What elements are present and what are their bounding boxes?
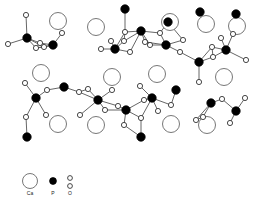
o-icon-upper	[68, 176, 73, 181]
atom-ca	[216, 69, 233, 86]
atom-o	[242, 95, 247, 100]
atom-p	[162, 41, 170, 49]
p-icon	[50, 178, 57, 185]
atom-ca	[33, 65, 50, 82]
atom-o	[59, 30, 64, 35]
atom-ca	[50, 116, 67, 133]
legend-item-o: O	[68, 176, 73, 196]
atom-p	[23, 34, 31, 42]
atom-o	[137, 83, 142, 88]
atom-o	[77, 112, 82, 117]
atom-o	[196, 79, 201, 84]
atom-o	[22, 80, 27, 85]
atom-p	[232, 107, 240, 115]
atom-o	[5, 41, 10, 46]
atom-o	[109, 87, 114, 92]
atom-p	[60, 83, 68, 91]
atom-p	[111, 45, 119, 53]
atom-p	[137, 27, 145, 35]
atom-o	[76, 89, 81, 94]
atom-p	[196, 8, 204, 16]
legend-label-ca: Ca	[27, 190, 34, 196]
atom-o	[41, 44, 46, 49]
atom-p	[49, 41, 57, 49]
atom-p	[137, 133, 145, 141]
atom-o	[155, 108, 160, 113]
atom-o	[122, 29, 127, 34]
ca-icon	[23, 174, 38, 189]
atom-ca	[50, 13, 67, 30]
atom-o	[230, 31, 235, 36]
atom-o	[23, 114, 28, 119]
atom-o	[243, 57, 248, 62]
legend-label-p: P	[51, 190, 55, 196]
atom-p	[207, 99, 215, 107]
atom-p	[232, 10, 240, 18]
atom-ca	[149, 66, 166, 83]
atom-o	[44, 87, 49, 92]
atom-o	[138, 115, 143, 120]
atom-o	[115, 103, 120, 108]
atom-o	[108, 38, 113, 43]
atom-o	[121, 38, 126, 43]
atom-ca	[88, 19, 105, 36]
atom-o	[23, 12, 28, 17]
atom-o	[127, 49, 132, 54]
legend: Ca P O	[0, 168, 264, 208]
atom-layer	[5, 5, 248, 141]
atom-o	[142, 39, 147, 44]
atom-o	[33, 45, 38, 50]
figure-root: Ca P O	[0, 0, 264, 208]
atom-p	[32, 94, 40, 102]
atom-ca	[104, 69, 121, 86]
atom-o	[180, 37, 185, 42]
atom-o	[209, 44, 214, 49]
atom-o	[121, 122, 126, 127]
atom-o	[193, 117, 198, 122]
atom-o	[157, 30, 162, 35]
atom-o	[98, 46, 103, 51]
atom-p	[222, 46, 230, 54]
atom-ca	[198, 16, 215, 33]
atom-o	[147, 42, 152, 47]
atom-p	[121, 5, 129, 13]
atom-o	[85, 86, 90, 91]
atom-o	[219, 96, 224, 101]
legend-item-ca: Ca	[23, 174, 38, 197]
atom-o	[200, 114, 205, 119]
atom-ca	[163, 116, 180, 133]
atom-o	[37, 40, 42, 45]
atom-p	[148, 94, 156, 102]
o-icon-lower	[68, 184, 73, 189]
atom-o	[43, 112, 48, 117]
crystal-structure-diagram	[0, 0, 264, 170]
atom-p	[94, 96, 102, 104]
atom-o	[218, 35, 223, 40]
atom-o	[210, 54, 215, 59]
atom-o	[141, 97, 146, 102]
atom-p	[23, 133, 31, 141]
atom-o	[102, 107, 107, 112]
atom-o	[168, 102, 173, 107]
atom-o	[227, 120, 232, 125]
legend-item-p: P	[50, 178, 57, 196]
atom-p	[172, 86, 180, 94]
atom-p	[164, 18, 172, 26]
atom-o	[177, 49, 182, 54]
legend-label-o: O	[68, 190, 72, 196]
atom-p	[122, 106, 130, 114]
atom-p	[195, 58, 203, 66]
atom-ca	[88, 117, 105, 134]
